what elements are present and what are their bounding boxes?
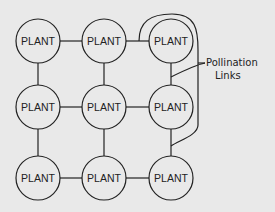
annotation-pollination: Pollination [206, 57, 258, 69]
plant-node: PLANT [149, 19, 193, 63]
brace-pointer [171, 63, 205, 77]
plant-grid-diagram: PLANT PLANT PLANT PLANT PLANT PLANT PLAN… [0, 0, 275, 212]
svg-text:PLANT: PLANT [87, 172, 121, 184]
svg-text:PLANT: PLANT [154, 35, 188, 47]
plant-node: PLANT [16, 156, 60, 200]
plant-node: PLANT [149, 85, 193, 129]
svg-text:PLANT: PLANT [87, 101, 121, 113]
svg-text:PLANT: PLANT [87, 35, 121, 47]
svg-text:PLANT: PLANT [21, 101, 55, 113]
plant-node: PLANT [16, 19, 60, 63]
plant-node: PLANT [82, 156, 126, 200]
svg-text:PLANT: PLANT [154, 101, 188, 113]
svg-text:PLANT: PLANT [21, 172, 55, 184]
svg-text:PLANT: PLANT [21, 35, 55, 47]
plant-node: PLANT [16, 85, 60, 129]
svg-text:PLANT: PLANT [154, 172, 188, 184]
plant-node: PLANT [149, 156, 193, 200]
plant-node: PLANT [82, 85, 126, 129]
annotation-links: Links [215, 70, 241, 82]
plant-node: PLANT [82, 19, 126, 63]
